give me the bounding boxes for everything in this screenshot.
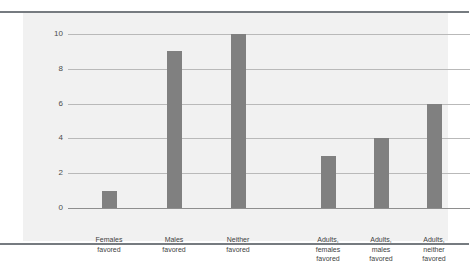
x-axis-tick-label: Adults, neither favored	[422, 235, 445, 264]
gridline	[68, 173, 470, 174]
y-axis-tick-label: 0	[59, 204, 63, 212]
x-axis-tick-label: Adults, males favored	[369, 235, 392, 264]
gridline	[68, 104, 470, 105]
bar	[374, 138, 389, 208]
x-axis-tick-label: Females favored	[96, 235, 123, 254]
x-axis-tick-label: Males favored	[162, 235, 185, 254]
y-axis-tick-label: 8	[59, 65, 63, 73]
gridline	[68, 34, 470, 35]
plot-area: 0246810Females favoredMales favoredNeith…	[68, 34, 470, 208]
bar	[231, 34, 246, 208]
y-axis-tick-label: 2	[59, 169, 63, 177]
bar	[427, 104, 442, 208]
bar	[167, 51, 182, 208]
x-axis-line	[68, 208, 470, 209]
bar	[102, 191, 117, 208]
x-axis-tick-label: Adults, females favored	[316, 235, 341, 264]
gridline	[68, 138, 470, 139]
chart-panel: 0246810Females favoredMales favoredNeith…	[23, 13, 448, 241]
y-axis-tick-label: 6	[59, 100, 63, 108]
gridline	[68, 69, 470, 70]
x-axis-tick-label: Neither favored	[226, 235, 249, 254]
bar	[321, 156, 336, 208]
y-axis-tick-label: 10	[54, 30, 63, 38]
y-axis-tick-label: 4	[59, 134, 63, 142]
